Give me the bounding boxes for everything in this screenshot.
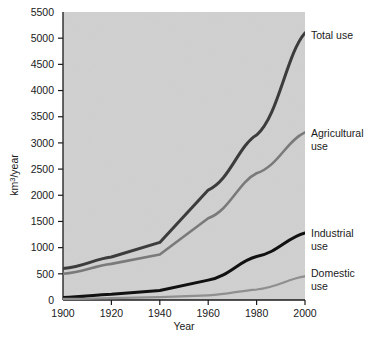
series-label-total-use: Total use (311, 29, 353, 41)
series-label-line: use (311, 280, 328, 292)
y-tick-label: 1000 (31, 241, 55, 253)
y-tick-label: 3500 (31, 110, 55, 122)
y-tick-label: 4000 (31, 84, 55, 96)
series-label-line: Agricultural (311, 127, 364, 139)
series-label-line: Total use (311, 29, 353, 41)
y-axis-title-pre: km (8, 182, 20, 196)
x-tick-label: 1940 (148, 307, 172, 319)
svg-text:km3/year: km3/year (8, 154, 21, 196)
series-label-line: Domestic (311, 267, 355, 279)
water-use-line-chart: 0500100015002000250030003500400045005000… (0, 0, 375, 337)
x-tick-label: 1980 (245, 307, 269, 319)
y-tick-label: 1500 (31, 215, 55, 227)
plot-texture-overlay (63, 12, 305, 300)
y-tick-label: 5500 (31, 6, 55, 18)
x-tick-label: 1920 (100, 307, 124, 319)
x-tick-label: 2000 (293, 307, 317, 319)
x-tick-label: 1960 (197, 307, 221, 319)
y-tick-label: 500 (36, 268, 54, 280)
series-label-line: Industrial (311, 227, 354, 239)
y-axis-title: km3/year (8, 154, 21, 196)
y-axis-title-post: /year (8, 154, 20, 178)
y-tick-label: 4500 (31, 58, 55, 70)
series-label-line: use (311, 140, 328, 152)
x-axis-title: Year (173, 320, 195, 332)
x-tick-label: 1900 (51, 307, 75, 319)
y-tick-label: 0 (48, 294, 54, 306)
y-tick-label: 3000 (31, 137, 55, 149)
series-label-line: use (311, 240, 328, 252)
plot-area (63, 12, 305, 300)
y-tick-label: 2000 (31, 189, 55, 201)
y-tick-label: 2500 (31, 163, 55, 175)
y-tick-label: 5000 (31, 32, 55, 44)
